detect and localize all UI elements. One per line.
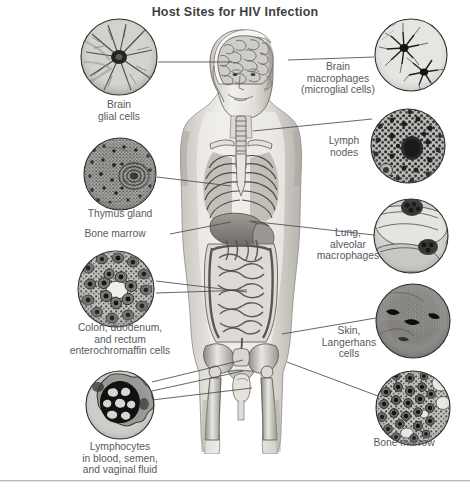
caption-brain-glial-cells: Brain glial cells [62, 99, 176, 122]
left-lung [203, 152, 232, 222]
intestines-group [204, 240, 277, 354]
page-title: Host Sites for HIV Infection [0, 5, 470, 19]
micrograph-lymph-nodes [371, 109, 445, 183]
hiv-host-sites-figure [0, 0, 470, 493]
micrograph-thymus-gland [84, 138, 156, 210]
right-femur-head [261, 366, 273, 378]
caption-thymus-gland: Thymus gland [57, 208, 183, 220]
caption-lymph-nodes: Lymph nodes [318, 135, 370, 158]
sacrum [233, 349, 250, 367]
left-eye [233, 73, 238, 76]
caption-brain-macrophages: Brain macrophages (microglial cells) [296, 61, 380, 96]
caption-skin-langerhans-cells: Skin, Langerhans cells [316, 325, 382, 360]
micrograph-skin-langerhans [376, 284, 450, 358]
caption-colon-duodenum-rectum: Colon, duodenum, and rectum enterochroma… [44, 322, 196, 357]
right-eye [251, 73, 256, 76]
micrograph-bone-marrow [376, 371, 450, 445]
micrograph-brain-glial-cells [81, 19, 157, 95]
bottom-divider-highlight [0, 481, 470, 482]
caption-bone-marrow-left: Bone marrow [60, 228, 170, 240]
caption-lung-alveolar-macrophages: Lung, alveolar macrophages [316, 227, 380, 262]
micrograph-lymphocytes [86, 371, 154, 439]
caption-bone-marrow-right: Bone marrow [348, 437, 460, 449]
caption-lymphocytes: Lymphocytes in blood, semen, and vaginal… [60, 441, 180, 476]
micrograph-brain-macrophages [375, 19, 447, 92]
right-lung [250, 152, 279, 222]
